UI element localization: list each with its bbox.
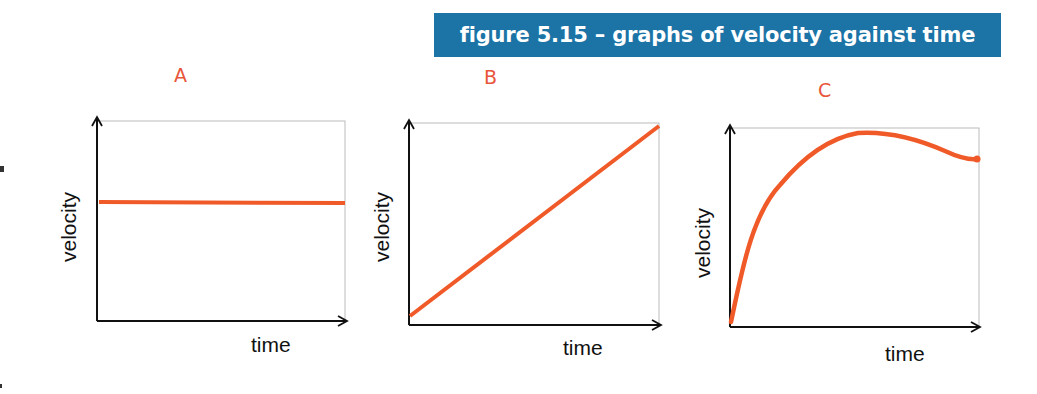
- graph-a: [97, 117, 347, 321]
- plot-frame-c: [730, 128, 979, 327]
- constant-velocity-line: [99, 202, 345, 203]
- velocity-time-graphs: [0, 0, 1037, 394]
- increasing-velocity-line: [410, 126, 659, 316]
- curve-end-dot: [974, 156, 981, 163]
- plot-frame-a: [97, 121, 345, 321]
- graph-c: [730, 125, 981, 327]
- velocity-curve: [731, 133, 978, 322]
- graph-b: [409, 120, 661, 325]
